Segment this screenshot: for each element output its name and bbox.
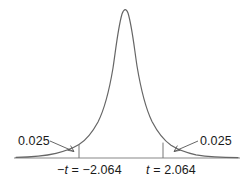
left-critical-value-label: −t = −2.064: [57, 164, 122, 177]
left-label-equals: =: [68, 163, 83, 177]
left-tail-area-label: 0.025: [18, 135, 50, 148]
distribution-chart: [0, 0, 251, 187]
left-label-value: −2.064: [83, 163, 122, 177]
t-distribution-figure: 0.025 0.025 −t = −2.064 t = 2.064: [0, 0, 251, 187]
right-critical-value-label: t = 2.064: [146, 164, 196, 177]
right-tail-area-label: 0.025: [200, 135, 232, 148]
right-label-value: 2.064: [164, 163, 196, 177]
right-label-equals: =: [150, 163, 165, 177]
left-area-leader-arrow: [50, 141, 74, 152]
right-area-leader-arrow: [174, 141, 198, 152]
